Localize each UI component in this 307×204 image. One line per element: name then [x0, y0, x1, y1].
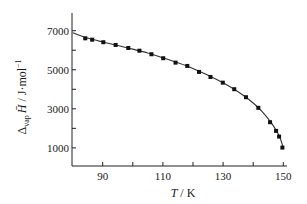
- x-tick-label: 110: [155, 170, 172, 182]
- data-point: [208, 75, 212, 79]
- data-point: [268, 120, 272, 124]
- data-point: [232, 87, 236, 91]
- y-tick-label: 5000: [47, 64, 70, 76]
- ticks: 901101301501000300050007000: [47, 25, 292, 182]
- data-point: [90, 38, 94, 42]
- data-points: [83, 36, 284, 149]
- x-axis-label: T / K: [171, 186, 196, 200]
- chart: 901101301501000300050007000 T / K ΔvapH̄…: [0, 0, 307, 204]
- data-point: [161, 56, 165, 60]
- y-tick-label: 1000: [47, 142, 70, 154]
- data-point: [277, 135, 281, 139]
- data-point: [274, 129, 278, 133]
- data-point: [114, 43, 118, 47]
- data-point: [83, 36, 87, 40]
- x-tick-label: 150: [275, 170, 292, 182]
- data-point: [197, 70, 201, 74]
- data-point: [101, 40, 105, 44]
- data-point: [126, 46, 130, 50]
- fit-curve: [73, 33, 284, 148]
- axes: [72, 13, 287, 166]
- data-point: [256, 106, 260, 110]
- data-point: [221, 81, 225, 85]
- x-tick-label: 90: [97, 170, 109, 182]
- data-point: [244, 95, 248, 99]
- fit-line: [73, 33, 284, 148]
- y-axis-label: ΔvapH̄ / J·mol−1: [14, 59, 31, 134]
- x-tick-label: 130: [215, 170, 232, 182]
- data-point: [174, 61, 178, 65]
- data-point: [185, 64, 189, 68]
- data-point: [149, 52, 153, 56]
- data-point: [280, 146, 284, 150]
- data-point: [137, 49, 141, 53]
- y-tick-label: 3000: [47, 103, 70, 115]
- y-tick-label: 7000: [47, 25, 70, 37]
